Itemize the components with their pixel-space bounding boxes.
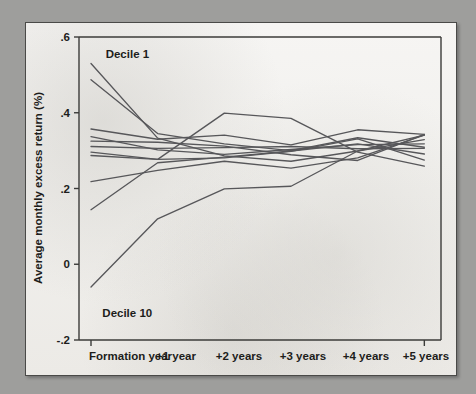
x-tick-labels: Formation year+1 year+2 years+3 years+4 …	[89, 350, 449, 362]
x-tick-label: +2 years	[216, 350, 262, 362]
x-tick-marks	[91, 340, 424, 346]
chart-plot-area: -.20.2.4.6 Decile 1Decile 10 Formation y…	[26, 23, 456, 375]
y-tick-label: .4	[60, 107, 70, 119]
y-tick-marks	[74, 37, 79, 340]
chart-axes	[79, 37, 441, 340]
series-annotation-label: Decile 10	[102, 307, 152, 319]
x-tick-label: +4 years	[343, 350, 389, 362]
y-tick-label: .2	[60, 183, 70, 195]
series-lines	[91, 64, 424, 287]
x-tick-label: +3 years	[280, 350, 326, 362]
x-tick-label: +5 years	[403, 350, 449, 362]
y-tick-label: .6	[60, 31, 70, 43]
y-tick-label: -.2	[57, 334, 70, 346]
x-tick-label: +1 year	[156, 350, 196, 362]
series-line	[91, 140, 424, 287]
series-annotation-label: Decile 1	[106, 48, 150, 60]
y-axis-title: Average monthly excess return (%)	[32, 92, 44, 284]
y-tick-label: 0	[64, 258, 70, 270]
figure-frame: -.20.2.4.6 Decile 1Decile 10 Formation y…	[25, 22, 457, 376]
y-tick-labels: -.20.2.4.6	[57, 31, 71, 346]
